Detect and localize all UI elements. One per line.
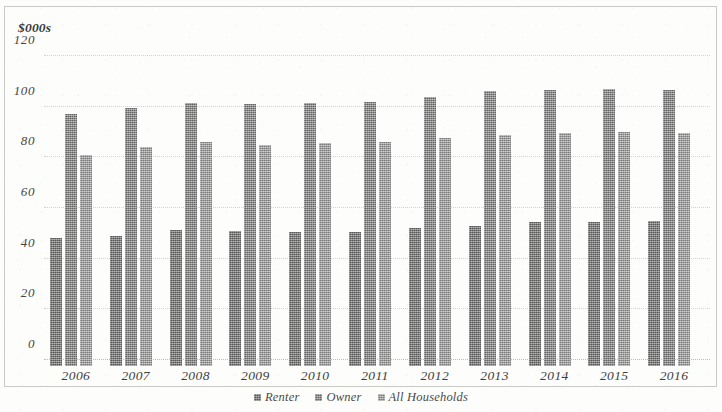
bar-all-households-2014	[559, 133, 571, 366]
bar-owner-2013	[484, 91, 496, 366]
bar-group-2009	[229, 50, 289, 366]
bar-all-households-2006	[80, 155, 92, 366]
bar-renter-2011	[349, 232, 361, 366]
bar-owner-2007	[125, 108, 137, 366]
bar-renter-2006	[50, 238, 62, 366]
x-tick-label-2011: 2011	[349, 368, 409, 392]
chart-legend: RenterOwnerAll Households	[0, 390, 722, 405]
bar-owner-2014	[544, 90, 556, 366]
bar-group-2012	[409, 50, 469, 366]
bar-group-2007	[110, 50, 170, 366]
plot-area: 020406080100120	[44, 50, 710, 366]
x-tick-label-2015: 2015	[588, 368, 648, 392]
legend-label: Renter	[265, 390, 300, 405]
x-tick-label-2007: 2007	[110, 368, 170, 392]
y-tick-label-40: 40	[21, 234, 35, 250]
bar-groups	[44, 50, 710, 366]
bar-renter-2014	[529, 222, 541, 366]
legend-label: Owner	[326, 390, 361, 405]
bar-group-2010	[289, 50, 349, 366]
bar-all-households-2012	[439, 138, 451, 366]
y-tick-label-0: 0	[28, 336, 35, 352]
bar-owner-2010	[304, 103, 316, 366]
bar-group-2011	[349, 50, 409, 366]
bar-group-2015	[588, 50, 648, 366]
bar-group-2006	[50, 50, 110, 366]
x-tick-label-2013: 2013	[469, 368, 529, 392]
bar-all-households-2008	[200, 142, 212, 366]
x-tick-label-2016: 2016	[648, 368, 708, 392]
legend-swatch-icon-0	[254, 394, 261, 401]
bar-group-2016	[648, 50, 708, 366]
bar-all-households-2016	[678, 133, 690, 366]
y-tick-label-100: 100	[14, 82, 35, 98]
bar-renter-2016	[648, 221, 660, 366]
x-tick-label-2009: 2009	[229, 368, 289, 392]
bar-owner-2006	[65, 114, 77, 366]
bar-all-households-2009	[259, 145, 271, 366]
bar-all-households-2015	[618, 132, 630, 366]
y-tick-label-20: 20	[21, 285, 35, 301]
bar-owner-2008	[185, 103, 197, 366]
legend-item-renter: Renter	[254, 390, 300, 405]
x-tick-label-2006: 2006	[50, 368, 110, 392]
bar-renter-2009	[229, 231, 241, 366]
bar-renter-2007	[110, 236, 122, 366]
legend-label: All Households	[389, 390, 469, 405]
bar-group-2014	[529, 50, 589, 366]
y-tick-label-120: 120	[14, 32, 35, 48]
bar-owner-2011	[364, 102, 376, 366]
bar-renter-2010	[289, 232, 301, 366]
bar-all-households-2013	[499, 135, 511, 366]
x-axis-tick-labels: 2006200720082009201020112012201320142015…	[44, 368, 710, 392]
bar-all-households-2010	[319, 143, 331, 366]
bar-renter-2012	[409, 228, 421, 366]
bar-owner-2012	[424, 97, 436, 366]
bar-all-households-2007	[140, 147, 152, 366]
legend-item-all-households: All Households	[378, 390, 469, 405]
x-tick-label-2010: 2010	[289, 368, 349, 392]
legend-item-owner: Owner	[315, 390, 361, 405]
x-tick-label-2008: 2008	[170, 368, 230, 392]
legend-swatch-icon-1	[315, 394, 322, 401]
legend-swatch-icon-2	[378, 394, 385, 401]
bar-owner-2015	[603, 89, 615, 366]
bar-group-2013	[469, 50, 529, 366]
bar-owner-2016	[663, 90, 675, 366]
y-tick-label-60: 60	[21, 184, 35, 200]
scanned-chart-page: $000s 020406080100120 200620072008200920…	[0, 0, 722, 412]
bar-all-households-2011	[379, 142, 391, 366]
bar-group-2008	[170, 50, 230, 366]
bar-owner-2009	[244, 104, 256, 366]
x-tick-label-2012: 2012	[409, 368, 469, 392]
x-tick-label-2014: 2014	[529, 368, 589, 392]
bar-renter-2015	[588, 222, 600, 366]
bar-renter-2008	[170, 230, 182, 366]
y-tick-label-80: 80	[21, 133, 35, 149]
bar-renter-2013	[469, 226, 481, 366]
